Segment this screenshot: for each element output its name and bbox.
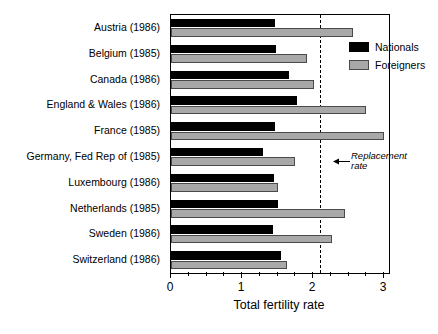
x-tick-label-0: 0 [167,280,174,294]
bar-nationals-4 [171,122,275,131]
bar-nationals-2 [171,71,289,80]
bar-nationals-1 [171,45,276,54]
legend-item-foreigners: Foreigners [349,57,438,72]
x-tick-minor-1 [206,272,207,276]
category-label-0: Austria (1986) [94,22,160,33]
legend-swatch-foreigners [349,60,369,70]
annotation-line-2: rate [351,161,407,171]
plot-area: Nationals Foreigners Replacement rate [170,14,390,274]
category-label-1: Belgium (1985) [89,48,160,59]
x-tick-minor-2 [223,272,224,276]
bar-foreigners-3 [171,106,366,115]
fertility-rate-bar-chart: Austria (1986)Belgium (1985)Canada (1986… [0,0,438,334]
category-label-4: France (1985) [94,125,160,136]
x-tick-minor-3 [259,272,260,276]
x-tick-minor-5 [294,272,295,276]
x-tick-label-2: 2 [309,280,316,294]
x-tick-major-0 [170,272,171,278]
legend-label-nationals: Nationals [375,41,419,53]
replacement-rate-annotation-text: Replacement rate [351,151,407,171]
category-label-9: Switzerland (1986) [72,254,160,265]
bar-nationals-3 [171,96,297,105]
bar-nationals-6 [171,174,274,183]
bar-foreigners-7 [171,209,345,218]
x-tick-label-1: 1 [238,280,245,294]
bar-foreigners-5 [171,157,295,166]
category-axis-labels: Austria (1986)Belgium (1985)Canada (1986… [0,14,166,272]
bar-nationals-7 [171,200,278,209]
chart-legend: Nationals Foreigners [349,39,438,75]
x-tick-minor-6 [330,272,331,276]
bar-foreigners-2 [171,80,314,89]
bar-foreigners-0 [171,28,353,37]
x-tick-minor-4 [277,272,278,276]
category-label-7: Netherlands (1985) [70,203,160,214]
x-tick-major-1 [241,272,242,278]
category-label-8: Sweden (1986) [89,228,160,239]
bar-foreigners-9 [171,261,287,270]
bar-nationals-5 [171,148,263,157]
bar-foreigners-8 [171,235,332,244]
bar-foreigners-4 [171,132,384,141]
bar-foreigners-1 [171,54,307,63]
legend-swatch-nationals [349,42,369,52]
x-tick-minor-7 [348,272,349,276]
x-tick-major-2 [312,272,313,278]
bar-nationals-8 [171,225,273,234]
left-arrow-icon [333,158,351,165]
x-tick-major-3 [383,272,384,278]
category-label-6: Luxembourg (1986) [68,177,160,188]
x-axis-tick-labels: 0123 [0,280,438,296]
bar-nationals-0 [171,19,275,28]
x-tick-label-3: 3 [380,280,387,294]
category-label-3: England & Wales (1986) [47,99,160,110]
legend-label-foreigners: Foreigners [375,59,425,71]
x-tick-minor-8 [365,272,366,276]
bar-nationals-9 [171,251,281,260]
x-tick-minor-0 [188,272,189,276]
x-axis-ticks [170,272,390,278]
category-label-5: Germany, Fed Rep of (1985) [27,151,160,162]
x-axis-title: Total fertility rate [170,298,388,312]
category-label-2: Canada (1986) [90,74,160,85]
bar-foreigners-6 [171,183,278,192]
legend-item-nationals: Nationals [349,39,438,54]
